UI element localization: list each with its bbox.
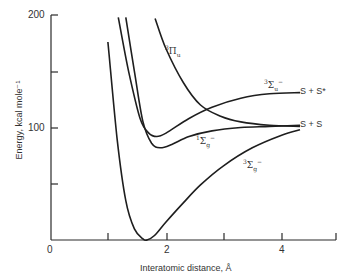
y-tick-label-200: 200	[28, 9, 45, 20]
axes	[51, 15, 336, 240]
curve-series-2	[118, 17, 300, 136]
x-tick-label-2: 2	[164, 244, 170, 255]
x-tick-label-0: 0	[47, 244, 53, 255]
label-3sigma-u-minus: 3Σu−	[264, 78, 283, 92]
asymptote-label-s-s: S + S	[300, 119, 322, 129]
label-1sigma-g-minus: 1Σg−	[196, 134, 215, 148]
label-3sigma-g-minus: 3Σg−	[243, 158, 262, 172]
curves	[108, 17, 300, 240]
curve-series-3	[155, 18, 300, 126]
asymptote-label-s-s-star: S + S*	[300, 86, 326, 96]
y-tick-label-100: 100	[28, 122, 45, 133]
x-axis-label: Interatomic distance, Å	[140, 263, 232, 273]
label-3pi-u: 3Πu	[165, 44, 181, 58]
y-axis-label: Energy, kcal mole⁻¹	[14, 65, 24, 175]
x-tick-label-4: 4	[279, 244, 285, 255]
potential-energy-chart	[0, 0, 343, 279]
